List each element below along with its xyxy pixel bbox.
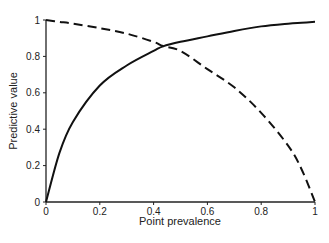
y-tick-label: 1 <box>34 15 40 26</box>
x-tick-label: 0.8 <box>254 206 268 217</box>
y-tick-label: 0.2 <box>26 160 40 171</box>
y-axis: 00.20.40.60.81 <box>26 15 46 208</box>
x-axis-title: Point prevalence <box>139 215 221 227</box>
y-axis-title: Predictive value <box>7 72 19 150</box>
ppv-solid-line <box>46 22 315 202</box>
y-tick-label: 0.8 <box>26 51 40 62</box>
x-tick-label: 0.2 <box>93 206 107 217</box>
x-tick-label: 1 <box>312 206 318 217</box>
x-tick-label: 0 <box>43 206 49 217</box>
y-tick-label: 0.4 <box>26 124 40 135</box>
series-lines <box>46 20 315 202</box>
predictive-value-chart: 00.20.40.60.81 00.20.40.60.81 Point prev… <box>0 0 329 243</box>
npv-dashed-line <box>46 20 315 202</box>
y-tick-label: 0.6 <box>26 87 40 98</box>
y-tick-label: 0 <box>34 197 40 208</box>
